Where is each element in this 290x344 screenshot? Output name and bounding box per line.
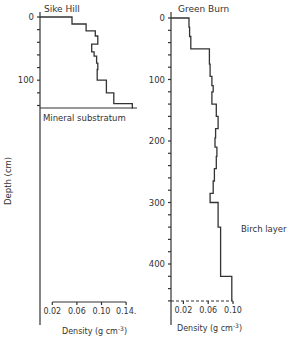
- x-tick-label: 0.14.: [116, 307, 136, 316]
- mineral-substratum-label: Mineral substratum: [43, 113, 126, 123]
- sike-hill-title: Sike Hill: [44, 4, 80, 14]
- x-tick-label: 0.06: [199, 306, 217, 315]
- birch-layer-label: Birch layer: [241, 224, 287, 234]
- x-tick-label: 0.02: [43, 307, 61, 316]
- sike-y-ticks: 0100: [18, 12, 40, 105]
- sike-hill-panel: Sike Hill 0100 Mineral substratum 0.020.…: [18, 4, 137, 336]
- green-burn-profile: [171, 18, 232, 301]
- green-x-ticks: 0.020.060.10: [174, 301, 241, 315]
- sike-hill-profile: [40, 17, 132, 109]
- sike-x-axis-label: Density (g cm-3): [62, 325, 127, 336]
- y-tick-label: 0: [160, 13, 165, 23]
- y-tick-label: 100: [18, 75, 34, 85]
- x-tick-label: 0.10: [93, 307, 111, 316]
- green-burn-title: Green Burn: [178, 4, 229, 14]
- green-y-ticks: 0100200300400: [149, 13, 171, 301]
- sike-x-scale: 0.020.060.100.14.: [43, 302, 136, 316]
- density-depth-chart: Sike Hill 0100 Mineral substratum 0.020.…: [0, 0, 290, 344]
- y-tick-label: 400: [149, 259, 165, 269]
- y-tick-label: 300: [149, 198, 165, 208]
- x-tick-label: 0.02: [174, 306, 192, 315]
- x-tick-label: 0.10: [224, 306, 242, 315]
- y-tick-label: 200: [149, 136, 165, 146]
- x-tick-label: 0.06: [68, 307, 86, 316]
- y-tick-label: 100: [149, 75, 165, 85]
- green-x-axis-label: Density (g cm-3): [177, 322, 242, 333]
- green-burn-panel: Green Burn 0100200300400 Birch layer 0.0…: [149, 4, 287, 333]
- y-axis-label: Depth (cm): [3, 157, 13, 205]
- y-tick-label: 0: [29, 12, 34, 22]
